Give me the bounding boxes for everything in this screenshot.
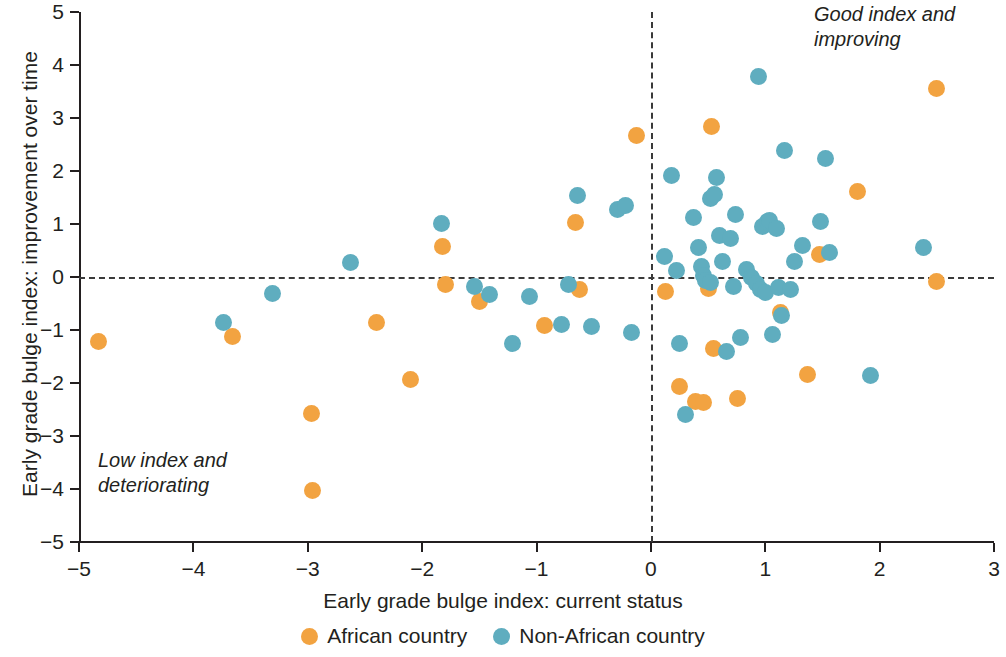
y-axis-tick — [70, 117, 79, 119]
x-axis-tick — [192, 543, 194, 552]
x-axis-tick — [993, 543, 995, 552]
scatter-point — [656, 248, 673, 265]
scatter-point — [729, 390, 746, 407]
y-axis-tick — [70, 276, 79, 278]
scatter-point — [215, 314, 232, 331]
scatter-point — [303, 405, 320, 422]
scatter-point — [794, 237, 811, 254]
x-axis-tick-label: −4 — [163, 558, 223, 579]
scatter-point — [569, 187, 586, 204]
scatter-point — [714, 253, 731, 270]
x-axis-tick-label: 0 — [621, 558, 681, 579]
scatter-point — [583, 318, 600, 335]
scatter-point — [732, 329, 749, 346]
scatter-point — [504, 335, 521, 352]
x-axis-tick-label: −3 — [278, 558, 338, 579]
y-axis-tick-label: 5 — [4, 1, 64, 22]
scatter-point — [817, 150, 834, 167]
y-axis-tick — [70, 64, 79, 66]
scatter-point — [928, 80, 945, 97]
scatter-point — [402, 371, 419, 388]
x-axis-tick-label: 2 — [850, 558, 910, 579]
scatter-point — [434, 238, 451, 255]
scatter-point — [915, 239, 932, 256]
x-axis-tick — [650, 543, 652, 552]
scatter-point — [623, 324, 640, 341]
scatter-point — [628, 127, 645, 144]
scatter-point — [671, 378, 688, 395]
x-axis-tick — [307, 543, 309, 552]
scatter-point — [862, 367, 879, 384]
y-axis-tick — [70, 223, 79, 225]
scatter-point — [536, 317, 553, 334]
scatter-point — [722, 230, 739, 247]
y-axis-tick — [70, 382, 79, 384]
scatter-point — [706, 186, 723, 203]
scatter-point — [671, 335, 688, 352]
scatter-point — [657, 283, 674, 300]
y-axis-title: Early grade bulge index: improvement ove… — [18, 39, 42, 509]
scatter-point — [663, 167, 680, 184]
x-axis-tick-label: −1 — [507, 558, 567, 579]
legend-item-african[interactable]: African country — [301, 624, 467, 648]
x-axis-tick — [536, 543, 538, 552]
scatter-point — [799, 366, 816, 383]
scatter-point — [786, 253, 803, 270]
x-axis-tick-label: 3 — [964, 558, 1006, 579]
legend-marker-non-african-icon — [493, 628, 510, 645]
legend-label-african: African country — [327, 624, 467, 648]
y-axis-tick — [70, 488, 79, 490]
scatter-point — [812, 213, 829, 230]
legend-label-non-african: Non-African country — [519, 624, 705, 648]
scatter-point — [677, 406, 694, 423]
scatter-point — [782, 281, 799, 298]
scatter-point — [481, 286, 498, 303]
scatter-point — [342, 254, 359, 271]
scatter-point — [437, 276, 454, 293]
x-axis-tick — [764, 543, 766, 552]
scatter-point — [773, 307, 790, 324]
y-axis-tick — [70, 329, 79, 331]
scatter-point — [695, 394, 712, 411]
annotation-low-index: Low index and deteriorating — [98, 448, 318, 498]
scatter-point — [703, 118, 720, 135]
scatter-point — [725, 278, 742, 295]
y-axis-tick — [70, 170, 79, 172]
scatter-point — [718, 343, 735, 360]
reference-line-vertical — [651, 12, 653, 542]
legend-item-non-african[interactable]: Non-African country — [493, 624, 705, 648]
y-axis-tick-label: −5 — [4, 531, 64, 552]
scatter-point — [617, 197, 634, 214]
x-axis-tick — [421, 543, 423, 552]
scatter-point — [727, 206, 744, 223]
scatter-point — [433, 215, 450, 232]
scatter-point — [768, 220, 785, 237]
scatter-point — [553, 316, 570, 333]
scatter-point — [685, 209, 702, 226]
scatter-point — [849, 183, 866, 200]
scatter-point — [264, 285, 281, 302]
y-axis-tick — [70, 11, 79, 13]
scatter-point — [928, 273, 945, 290]
scatter-point — [521, 288, 538, 305]
annotation-good-index: Good index and improving — [814, 2, 994, 52]
x-axis-tick — [78, 543, 80, 552]
legend-marker-african-icon — [301, 628, 318, 645]
x-axis-title: Early grade bulge index: current status — [0, 589, 1006, 613]
scatter-point — [668, 262, 685, 279]
x-axis-tick-label: −5 — [49, 558, 109, 579]
x-axis-tick-label: −2 — [392, 558, 452, 579]
x-axis-tick-label: 1 — [735, 558, 795, 579]
scatter-point — [764, 326, 781, 343]
scatter-point — [690, 239, 707, 256]
scatter-point — [750, 68, 767, 85]
scatter-point — [708, 169, 725, 186]
scatter-point — [776, 142, 793, 159]
scatter-point — [821, 244, 838, 261]
scatter-point — [567, 214, 584, 231]
chart-legend: African country Non-African country — [0, 624, 1006, 648]
scatter-point — [90, 333, 107, 350]
scatter-point — [368, 314, 385, 331]
y-axis-tick — [70, 435, 79, 437]
x-axis-tick — [879, 543, 881, 552]
